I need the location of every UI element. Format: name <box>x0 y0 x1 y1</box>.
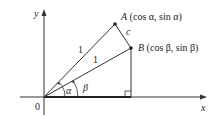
angle-beta-arc <box>73 81 78 98</box>
x-axis-arrow-icon <box>200 95 207 100</box>
x-axis-label: x <box>200 102 206 113</box>
point-B-label: B (cos β, sin β) <box>138 42 198 54</box>
origin-label: 0 <box>35 101 40 112</box>
point-A-label: A (cos α, sin α) <box>120 11 182 23</box>
segment-OA-label: 1 <box>78 44 83 55</box>
segment-OA <box>44 24 115 97</box>
angle-alpha-label: α <box>66 85 72 96</box>
segment-AB-label: c <box>126 26 131 37</box>
point-B <box>129 46 133 50</box>
point-A <box>113 22 117 26</box>
y-axis-label: y <box>33 8 39 19</box>
y-axis-arrow-icon <box>42 9 47 16</box>
segment-OB-label: 1 <box>93 54 98 65</box>
unit-circle-diagram: y x 0 1 1 c α β A (cos α, sin α) B (cos … <box>0 0 219 119</box>
angle-alpha-arc <box>59 82 65 97</box>
angle-beta-label: β <box>82 82 88 93</box>
